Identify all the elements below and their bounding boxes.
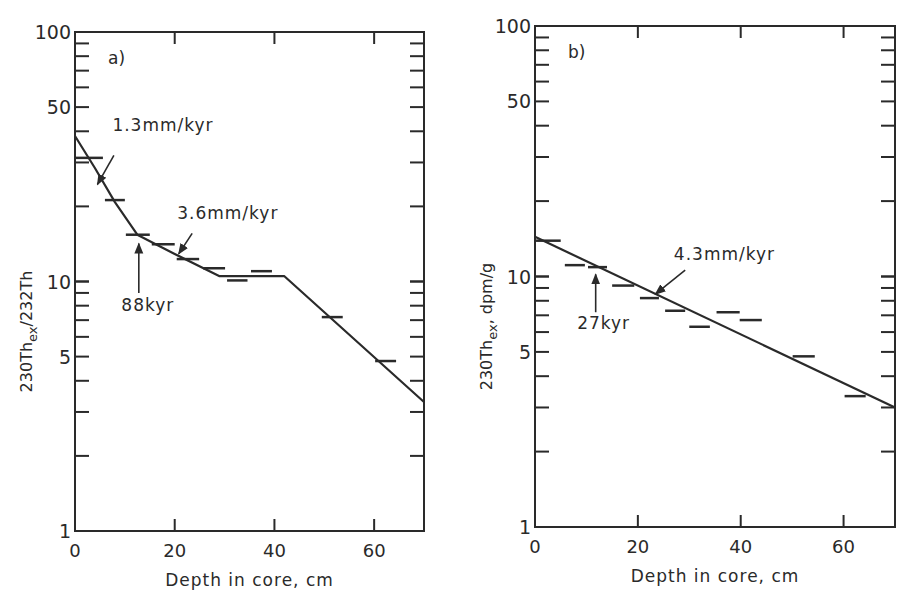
y-label-subscript: ex (485, 324, 500, 340)
y-tick-label: 5 (59, 346, 71, 368)
y-label-main: 230Th (17, 342, 36, 392)
annotation-arrow (179, 233, 192, 254)
y-axis-label: 230Thex, dpm/g (477, 263, 500, 391)
y-tick-label: 100 (495, 15, 531, 37)
y-label-rest: , dpm/g (477, 263, 496, 325)
panel-b-chart: 1510501000204060Depth in core, cm230Thex… (477, 15, 895, 586)
y-tick-label: 100 (35, 21, 71, 43)
panel-label: a) (108, 48, 125, 68)
y-tick-label: 50 (507, 90, 531, 112)
annotation-arrow (655, 270, 685, 294)
annotation-label: 88kyr (121, 295, 174, 315)
annotation-label: 4.3mm/kyr (674, 244, 775, 264)
y-axis-label: 230Thex/232Th (17, 271, 40, 393)
panel-a-chart: 1510501000204060Depth in core, cm230Thex… (17, 21, 424, 590)
y-tick-label: 1 (59, 520, 71, 542)
x-tick-label: 40 (729, 536, 752, 557)
x-tick-label: 0 (529, 536, 540, 557)
annotation-label: 3.6mm/kyr (177, 203, 278, 223)
x-tick-label: 60 (832, 536, 855, 557)
annotation-label: 27kyr (577, 313, 630, 333)
x-tick-label: 20 (626, 536, 649, 557)
x-axis-label: Depth in core, cm (165, 570, 334, 590)
annotation-arrow (97, 155, 113, 184)
plot-frame (535, 26, 895, 527)
y-label-rest: /232Th (17, 271, 36, 327)
y-tick-label: 5 (519, 341, 531, 363)
x-tick-label: 40 (263, 540, 286, 561)
x-axis-label: Depth in core, cm (631, 566, 800, 586)
y-label-main: 230Th (477, 340, 496, 390)
x-tick-label: 60 (363, 540, 386, 561)
plot-frame (75, 32, 424, 531)
y-tick-label: 10 (507, 266, 531, 288)
panel-label: b) (568, 42, 585, 62)
y-label-subscript: ex (25, 326, 40, 342)
figure: 1510501000204060Depth in core, cm230Thex… (0, 0, 909, 598)
x-tick-label: 0 (69, 540, 80, 561)
fit-line (75, 136, 424, 402)
x-tick-label: 20 (163, 540, 186, 561)
y-tick-label: 1 (519, 516, 531, 538)
annotation-label: 1.3mm/kyr (112, 115, 213, 135)
y-tick-label: 10 (47, 271, 71, 293)
y-tick-label: 50 (47, 96, 71, 118)
